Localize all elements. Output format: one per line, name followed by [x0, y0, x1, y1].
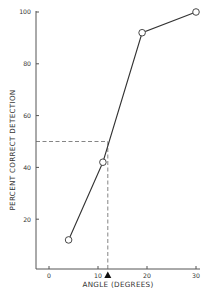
- data-point-circle: [193, 9, 200, 16]
- x-tick-label: 0: [47, 272, 51, 279]
- x-tick-label: 20: [143, 272, 151, 279]
- y-tick-label: 40: [23, 164, 31, 171]
- y-tick-label: 100: [19, 8, 31, 15]
- data-point-circle: [65, 237, 72, 244]
- data-line: [69, 12, 196, 240]
- x-tick-label: 30: [192, 272, 200, 279]
- chart: 20406080100 0102030 ANGLE (DEGREES) PERC…: [0, 0, 213, 297]
- x-axis-label: ANGLE (DEGREES): [82, 280, 153, 289]
- y-tick-label: 60: [23, 112, 31, 119]
- data-point-circle: [139, 29, 146, 36]
- threshold-triangle-icon: [104, 272, 111, 279]
- x-tick-label: 10: [94, 272, 102, 279]
- y-tick-label: 20: [23, 216, 31, 223]
- y-axis-label: PERCENT CORRECT DETECTION: [8, 89, 17, 210]
- data-markers: [65, 9, 199, 244]
- x-ticks: 0102030: [47, 266, 200, 279]
- threshold-lines: [36, 142, 108, 270]
- data-point-circle: [100, 159, 107, 166]
- y-tick-label: 80: [23, 60, 31, 67]
